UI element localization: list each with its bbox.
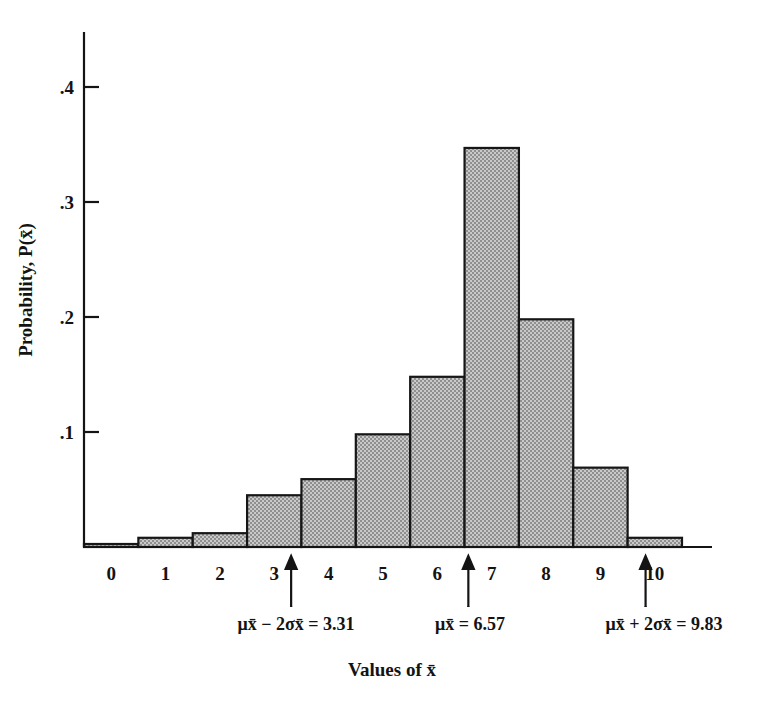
histogram-figure: .1.2.3.4 012345678910 Probability, P(x̄)… <box>0 0 767 705</box>
histogram-bar <box>519 319 573 547</box>
annotation-arrow-head <box>463 556 474 569</box>
annotation-label-upper-2sigma: μx̄ + 2σx̄ = 9.83 <box>605 614 722 634</box>
x-tick-label: 1 <box>161 563 171 584</box>
annotation-label-mean: μx̄ = 6.57 <box>435 614 505 634</box>
histogram-bar <box>301 479 355 547</box>
y-tick-label: .1 <box>60 422 74 443</box>
histogram-bar <box>573 468 627 547</box>
x-tick-label: 3 <box>270 563 280 584</box>
x-tick-labels-group: 012345678910 <box>106 563 664 584</box>
x-tick-label: 2 <box>215 563 225 584</box>
histogram-bar <box>410 377 464 547</box>
annotation-arrow-head <box>286 556 297 569</box>
annotations-group: μx̄ − 2σx̄ = 3.31μx̄ = 6.57μx̄ + 2σx̄ = … <box>237 556 722 634</box>
y-tick-label: .4 <box>60 77 75 98</box>
histogram-bar <box>465 148 519 547</box>
y-tick-label: .2 <box>60 307 74 328</box>
x-tick-label: 5 <box>378 563 388 584</box>
histogram-bar <box>138 538 192 547</box>
x-tick-label: 9 <box>596 563 606 584</box>
annotation-label-lower-2sigma: μx̄ − 2σx̄ = 3.31 <box>237 614 354 634</box>
x-tick-label: 4 <box>324 563 334 584</box>
x-tick-label: 6 <box>433 563 443 584</box>
histogram-bar <box>628 538 682 547</box>
annotation-arrow-head <box>640 556 651 569</box>
y-tick-label: .3 <box>60 192 74 213</box>
x-axis-title: Values of x̄ <box>348 659 436 680</box>
histogram-bar <box>193 533 247 547</box>
bars-group <box>84 148 682 547</box>
y-axis-title: Probability, P(x̄) <box>15 223 37 357</box>
y-ticks-group: .1.2.3.4 <box>60 77 99 443</box>
x-tick-label: 8 <box>541 563 551 584</box>
histogram-bar <box>356 434 410 547</box>
x-tick-label: 7 <box>487 563 497 584</box>
x-tick-label: 0 <box>106 563 116 584</box>
histogram-svg: .1.2.3.4 012345678910 Probability, P(x̄)… <box>0 0 767 705</box>
histogram-bar <box>247 495 301 547</box>
